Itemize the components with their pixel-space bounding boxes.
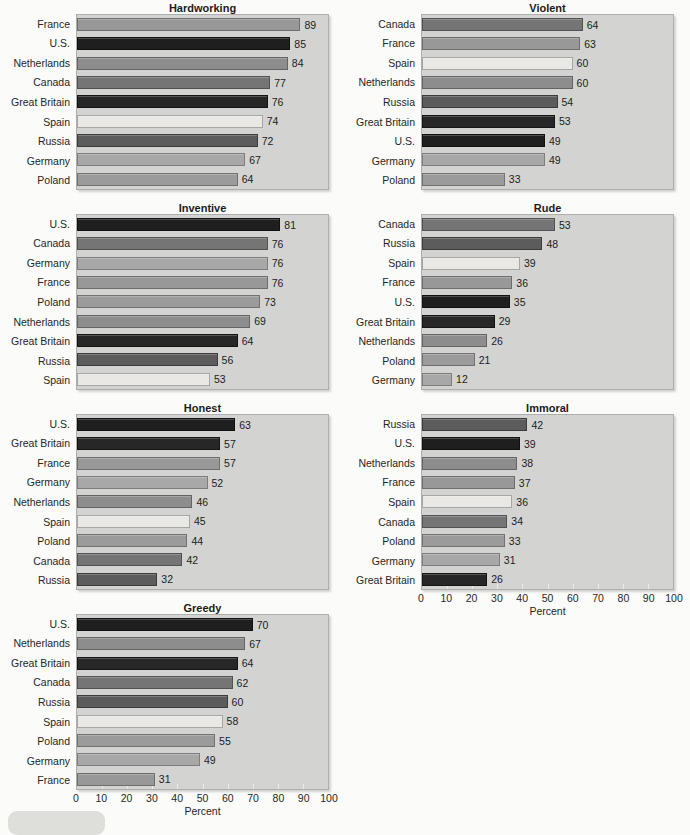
value-label: 76: [272, 96, 284, 108]
x-axis: 0102030405060708090100Percent: [421, 591, 674, 619]
chart-body: CanadaFranceSpainNetherlandsRussiaGreat …: [345, 14, 674, 190]
country-label: France: [0, 771, 76, 791]
axis-tick-label: 20: [121, 792, 133, 804]
bar-spain: [77, 115, 263, 128]
value-label: 63: [239, 419, 251, 431]
country-label: Canada: [0, 234, 76, 254]
value-label: 76: [272, 277, 284, 289]
value-label: 70: [257, 619, 269, 631]
bar-u-s-: [422, 134, 545, 147]
country-label: Germany: [345, 151, 421, 171]
country-label: Netherlands: [345, 331, 421, 351]
value-label: 64: [242, 335, 254, 347]
country-label: Canada: [0, 673, 76, 693]
chart-body: U.S.Great BritainFranceGermanyNetherland…: [0, 414, 329, 590]
chart-body: U.S.CanadaGermanyFrancePolandNetherlands…: [0, 214, 329, 390]
bar-row: 54: [422, 92, 673, 111]
bar-row: 33: [422, 170, 673, 189]
value-label: 46: [196, 496, 208, 508]
axis-tick-label: 60: [567, 592, 579, 604]
value-label: 84: [292, 57, 304, 69]
bar-canada: [422, 218, 555, 231]
bar-row: 31: [77, 770, 328, 789]
country-label: U.S.: [345, 292, 421, 312]
bar-row: 26: [422, 570, 673, 589]
country-label: France: [345, 273, 421, 293]
bar-row: 32: [77, 570, 328, 589]
value-label: 49: [204, 754, 216, 766]
country-label: U.S.: [0, 614, 76, 634]
axis-tick-label: 40: [171, 792, 183, 804]
country-label: Spain: [0, 512, 76, 532]
bar-spain: [77, 715, 223, 728]
country-label: Canada: [0, 73, 76, 93]
chart-body: FranceU.S.NetherlandsCanadaGreat Britain…: [0, 14, 329, 190]
bar-row: 39: [422, 254, 673, 273]
chart-body: CanadaRussiaSpainFranceU.S.Great Britain…: [345, 214, 674, 390]
axis-tick-label: 10: [95, 792, 107, 804]
bar-france: [77, 457, 220, 470]
bar-row: 37: [422, 473, 673, 492]
bar-row: 53: [77, 370, 328, 389]
bar-germany: [77, 257, 268, 270]
chart-honest: HonestU.S.Great BritainFranceGermanyNeth…: [0, 402, 329, 590]
bar-netherlands: [422, 334, 487, 347]
bar-u-s-: [422, 437, 520, 450]
bar-row: 69: [77, 312, 328, 331]
value-label: 53: [214, 373, 226, 385]
country-label: Netherlands: [0, 53, 76, 73]
chart-body: RussiaU.S.NetherlandsFranceSpainCanadaPo…: [345, 414, 674, 590]
bar-row: 31: [422, 550, 673, 569]
bar-row: 42: [77, 550, 328, 569]
value-label: 60: [577, 77, 589, 89]
bar-row: 64: [77, 654, 328, 673]
value-label: 85: [294, 38, 306, 50]
country-label: Canada: [0, 551, 76, 571]
country-label: Poland: [0, 292, 76, 312]
bar-spain: [422, 57, 573, 70]
chart-body: U.S.NetherlandsGreat BritainCanadaRussia…: [0, 614, 329, 790]
country-label: U.S.: [345, 434, 421, 454]
bar-poland: [422, 173, 505, 186]
bar-row: 57: [77, 434, 328, 453]
country-label: Great Britain: [345, 312, 421, 332]
country-label: Russia: [345, 414, 421, 434]
value-label: 36: [516, 496, 528, 508]
bar-spain: [77, 515, 190, 528]
bar-row: 53: [422, 215, 673, 234]
country-label: Netherlands: [345, 73, 421, 93]
bar-poland: [422, 353, 475, 366]
cutoff-decoration-box: [8, 811, 105, 835]
bar-row: 56: [77, 350, 328, 369]
country-label: Great Britain: [0, 331, 76, 351]
bar-row: 63: [77, 415, 328, 434]
plot-area: 534839363529262112: [421, 214, 674, 390]
bar-row: 42: [422, 415, 673, 434]
axis-tick-label: 40: [516, 592, 528, 604]
bar-great-britain: [77, 437, 220, 450]
bar-row: 85: [77, 34, 328, 53]
chart-title: Hardworking: [76, 2, 329, 14]
value-label: 81: [284, 219, 296, 231]
bar-poland: [422, 534, 505, 547]
country-label: Spain: [345, 253, 421, 273]
bar-netherlands: [422, 76, 573, 89]
bar-row: 76: [77, 254, 328, 273]
country-label: Netherlands: [0, 312, 76, 332]
bar-row: 33: [422, 531, 673, 550]
category-labels: FranceU.S.NetherlandsCanadaGreat Britain…: [0, 14, 76, 190]
plot-area: 706764626058554931: [76, 614, 329, 790]
bar-poland: [77, 173, 238, 186]
bar-row: 76: [77, 273, 328, 292]
axis-tick-label: 70: [592, 592, 604, 604]
category-labels: U.S.Great BritainFranceGermanyNetherland…: [0, 414, 76, 590]
bar-row: 67: [77, 150, 328, 169]
category-labels: U.S.NetherlandsGreat BritainCanadaRussia…: [0, 614, 76, 790]
country-label: Spain: [345, 492, 421, 512]
value-label: 29: [499, 315, 511, 327]
country-label: U.S.: [0, 214, 76, 234]
bar-canada: [77, 676, 233, 689]
bar-russia: [422, 237, 542, 250]
value-label: 64: [242, 657, 254, 669]
bar-row: 60: [422, 54, 673, 73]
